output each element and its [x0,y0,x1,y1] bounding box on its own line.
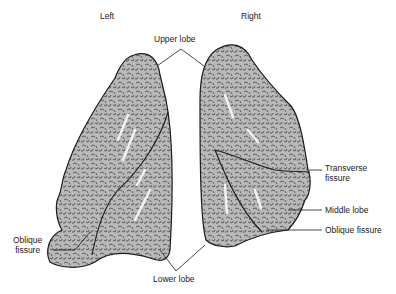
label-upper-lobe: Upper lobe [154,34,196,44]
label-oblique-fissure-right: Oblique fissure [325,225,382,235]
label-lower-lobe: Lower lobe [153,274,195,284]
label-oblique-fissure-left: Oblique fissure [13,235,42,255]
label-transverse-fissure-line2: fissure [325,173,367,183]
label-oblique-fissure-left-line1: Oblique [13,235,42,245]
label-middle-lobe: Middle lobe [325,205,368,215]
right-lung [200,45,310,247]
label-transverse-fissure-line1: Transverse [325,163,367,173]
upper-lobe-leader [157,49,204,66]
right-lung-outline [200,45,310,247]
label-transverse-fissure: Transverse fissure [325,163,367,183]
label-oblique-fissure-left-line2: fissure [13,245,42,255]
label-right: Right [241,11,261,21]
label-left: Left [100,11,114,21]
lungs-diagram [0,0,396,294]
left-lung-outline [48,54,172,268]
left-lung [48,54,172,268]
